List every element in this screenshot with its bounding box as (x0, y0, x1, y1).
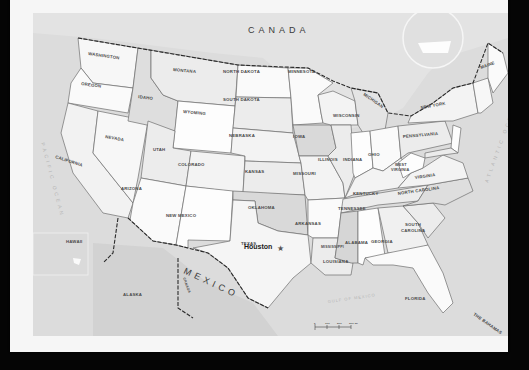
label-missouri: MISSOURI (293, 171, 316, 176)
label-south-carolina-2: CAROLINA (401, 228, 425, 233)
label-ohio: OHIO (368, 152, 380, 157)
label-louisiana: LOUISIANA (323, 259, 348, 264)
label-oklahoma: OKLAHOMA (248, 205, 275, 210)
label-georgia: GEORGIA (371, 239, 393, 244)
label-indiana: INDIANA (343, 157, 362, 162)
label-kansas: KANSAS (245, 169, 264, 174)
scale-tick-100: 100 (325, 322, 330, 325)
label-mississippi: MISSISSIPPI (321, 245, 344, 249)
state-south-dakota[interactable] (233, 97, 293, 133)
state-wyoming[interactable] (173, 101, 235, 153)
us-map: CANADA MEXICO CUBA THE BAHAMAS PACIFIC O… (33, 13, 508, 336)
label-alaska: ALASKA (123, 292, 142, 297)
label-west-virginia-1: WEST (395, 163, 407, 167)
map-paper: CANADA MEXICO CUBA THE BAHAMAS PACIFIC O… (10, 0, 508, 352)
label-canada: CANADA (248, 25, 310, 35)
label-florida: FLORIDA (405, 296, 426, 301)
label-arizona: ARIZONA (121, 186, 142, 191)
state-iowa[interactable] (293, 125, 336, 156)
label-tennessee: TENNESSEE (338, 206, 366, 211)
label-north-dakota: NORTH DAKOTA (223, 69, 260, 74)
label-minnesota: MINNESOTA (288, 69, 315, 74)
label-nebraska: NEBRASKA (229, 133, 255, 138)
label-south-carolina-1: SOUTH (405, 222, 421, 227)
label-illinois: ILLINOIS (318, 157, 338, 162)
label-kentucky: KENTUCKY (353, 191, 378, 196)
globe-inset (403, 13, 463, 68)
scale-tick-200: 200 (337, 322, 342, 325)
label-hawaii: HAWAII (66, 239, 82, 244)
label-south-dakota: SOUTH DAKOTA (223, 97, 260, 102)
label-iowa: IOWA (293, 134, 305, 139)
label-wisconsin: WISCONSIN (333, 113, 360, 118)
label-utah: UTAH (153, 147, 165, 152)
label-west-virginia-2: VIRGINIA (391, 168, 410, 172)
star-icon: ★ (277, 244, 284, 253)
label-colorado: COLORADO (178, 162, 205, 167)
label-alabama: ALABAMA (345, 240, 368, 245)
label-houston: Houston (244, 243, 272, 250)
state-kansas[interactable] (243, 161, 305, 195)
label-new-mexico: NEW MEXICO (166, 213, 197, 218)
us-map-svg: CANADA MEXICO CUBA THE BAHAMAS PACIFIC O… (33, 13, 508, 336)
scale-tick-300: 300 mi (349, 322, 358, 325)
label-arkansas: ARKANSAS (295, 221, 321, 226)
